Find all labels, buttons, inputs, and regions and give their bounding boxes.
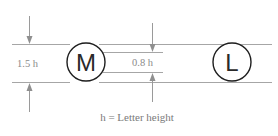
caption: h = Letter height [100, 111, 174, 123]
arrow-up-icon [27, 83, 33, 91]
arrow-down-icon [150, 44, 156, 52]
left-dimension-label: 1.5 h [17, 58, 39, 69]
letter-m: M [76, 49, 96, 76]
arrow-up-icon [150, 73, 156, 81]
letter-l: L [225, 49, 238, 76]
circled-letter-l: L [213, 43, 251, 81]
letter-height-diagram: 1.5 h 0.8 h M L h = Letter height [0, 0, 278, 136]
arrow-down-icon [27, 36, 33, 44]
inner-dimension-label: 0.8 h [132, 57, 154, 68]
circled-letter-m: M [67, 43, 105, 81]
